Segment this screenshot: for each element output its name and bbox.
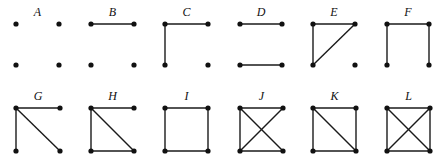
- graph-vertex: [310, 105, 315, 110]
- graph-vertex: [352, 62, 357, 67]
- graph-vertex: [353, 148, 358, 153]
- graph-label: E: [329, 5, 338, 19]
- graph-vertex: [352, 21, 357, 26]
- graph-vertex: [56, 62, 61, 67]
- graph-b: B: [88, 5, 136, 68]
- graph-c: C: [162, 5, 210, 68]
- graph-vertex: [88, 62, 93, 67]
- graph-figure: ABCDEFGHIJKL: [0, 0, 441, 160]
- graph-vertex: [131, 21, 136, 26]
- graph-edge: [91, 108, 134, 151]
- graph-edge: [313, 108, 356, 151]
- graph-a: A: [13, 5, 61, 68]
- graph-vertex: [88, 21, 93, 26]
- graph-vertex: [384, 21, 389, 26]
- graph-vertex: [13, 105, 18, 110]
- graph-vertex: [427, 105, 432, 110]
- graph-vertex: [57, 148, 62, 153]
- graph-vertex: [237, 21, 242, 26]
- graph-vertex: [384, 62, 389, 67]
- graph-edge: [313, 24, 355, 65]
- graph-vertex: [280, 105, 285, 110]
- graph-vertex: [13, 148, 18, 153]
- graph-vertex: [57, 105, 62, 110]
- graph-label: L: [404, 89, 412, 103]
- graph-f: F: [384, 5, 431, 68]
- graph-vertex: [205, 62, 210, 67]
- graph-h: H: [88, 89, 136, 154]
- graph-label: F: [403, 5, 412, 19]
- graph-vertex: [13, 21, 18, 26]
- graph-label: B: [109, 5, 117, 19]
- graph-l: L: [384, 89, 432, 154]
- graph-vertex: [279, 62, 284, 67]
- graph-vertex: [205, 21, 210, 26]
- graph-j: J: [237, 89, 285, 154]
- graph-label: K: [329, 89, 339, 103]
- graph-vertex: [131, 148, 136, 153]
- graph-vertex: [353, 105, 358, 110]
- graph-vertex: [88, 148, 93, 153]
- graph-vertex: [426, 62, 431, 67]
- graph-vertex: [131, 62, 136, 67]
- graph-k: K: [310, 89, 358, 154]
- graph-g: G: [13, 89, 62, 154]
- graph-vertex: [310, 148, 315, 153]
- graph-label: J: [259, 89, 265, 103]
- graph-e: E: [310, 5, 357, 68]
- graph-label: I: [184, 89, 190, 103]
- graph-vertex: [237, 148, 242, 153]
- graph-vertex: [162, 105, 167, 110]
- graph-vertex: [205, 105, 210, 110]
- graph-vertex: [13, 62, 18, 67]
- graph-vertex: [427, 148, 432, 153]
- graph-vertex: [237, 105, 242, 110]
- graph-label: A: [33, 5, 42, 19]
- graph-vertex: [310, 21, 315, 26]
- graph-vertex: [310, 62, 315, 67]
- graph-vertex: [205, 148, 210, 153]
- graph-vertex: [162, 21, 167, 26]
- graph-edge: [16, 108, 60, 151]
- graph-vertex: [237, 62, 242, 67]
- graph-vertex: [426, 21, 431, 26]
- graph-vertex: [56, 21, 61, 26]
- graph-vertex: [384, 105, 389, 110]
- graph-label: C: [182, 5, 191, 19]
- graph-vertex: [279, 21, 284, 26]
- graph-label: H: [107, 89, 118, 103]
- graph-d: D: [237, 5, 284, 68]
- graph-i: I: [162, 89, 210, 154]
- graph-label: G: [34, 89, 43, 103]
- graph-vertex: [162, 62, 167, 67]
- graph-vertex: [162, 148, 167, 153]
- graph-vertex: [88, 105, 93, 110]
- graph-vertex: [131, 105, 136, 110]
- graph-label: D: [256, 5, 266, 19]
- graph-vertex: [280, 148, 285, 153]
- graph-vertex: [384, 148, 389, 153]
